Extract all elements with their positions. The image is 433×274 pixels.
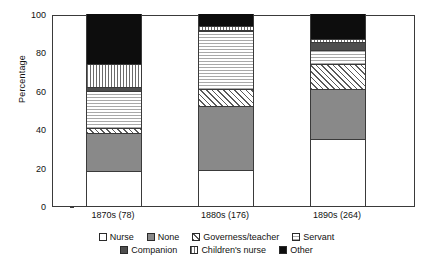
bar-segment[interactable] [87, 171, 141, 206]
bar-segment[interactable] [199, 14, 253, 26]
legend-swatch-servant [292, 233, 300, 241]
y-tick-label: 0 [41, 203, 46, 212]
x-tick-label: 1890s (264) [313, 210, 361, 220]
bar-segment[interactable] [311, 139, 365, 206]
y-tick-label: 40 [36, 126, 46, 135]
y-tick-label: 60 [36, 88, 46, 97]
legend-item[interactable]: Companion [120, 245, 177, 255]
legend-label: Nurse [110, 232, 134, 242]
legend-row-2: CompanionChildren's nurseOther [0, 245, 433, 255]
legend-swatch-companion [120, 246, 128, 254]
bar-segment[interactable] [87, 14, 141, 64]
x-tick-label: 1880s (176) [201, 210, 249, 220]
legend-label: Companion [131, 245, 177, 255]
bar-segment[interactable] [311, 42, 365, 50]
bar-segment[interactable] [199, 89, 253, 106]
stacked-bar[interactable] [310, 14, 366, 206]
chart-legend: NurseNoneGoverness/teacherServant Compan… [0, 232, 433, 258]
legend-label: Other [290, 245, 313, 255]
bar-segment[interactable] [87, 64, 141, 87]
bar-segment[interactable] [199, 31, 253, 89]
x-tick-label: 1870s (78) [91, 210, 134, 220]
legend-swatch-governess [192, 233, 200, 241]
legend-swatch-none [147, 233, 155, 241]
legend-label: Governess/teacher [203, 232, 279, 242]
plot-area: Percentage 100806040200 1870s (78)1880s … [0, 0, 433, 222]
bar-segment[interactable] [311, 89, 365, 139]
legend-item[interactable]: None [147, 232, 180, 242]
legend-swatch-nurse [99, 233, 107, 241]
legend-item[interactable]: Governess/teacher [192, 232, 279, 242]
y-tick-label: 80 [36, 49, 46, 58]
axes-box [52, 15, 415, 207]
stacked-bar-chart-figure: Percentage 100806040200 1870s (78)1880s … [0, 0, 433, 274]
legend-item[interactable]: Children's nurse [190, 245, 266, 255]
legend-label: Servant [303, 232, 334, 242]
bar-segment[interactable] [311, 14, 365, 39]
stacked-bar[interactable] [86, 14, 142, 206]
stacked-bar[interactable] [198, 14, 254, 206]
bar-segment[interactable] [199, 170, 253, 206]
legend-swatch-other [279, 246, 287, 254]
bar-segment[interactable] [87, 91, 141, 128]
bar-segment[interactable] [87, 133, 141, 171]
bar-segment[interactable] [311, 50, 365, 64]
legend-swatch-childrens-nurse [190, 246, 198, 254]
y-axis-tick-labels: 100806040200 [22, 8, 46, 208]
x-axis-tick-labels: 1870s (78)1880s (176)1890s (264) [52, 210, 415, 226]
legend-row-1: NurseNoneGoverness/teacherServant [0, 232, 433, 242]
y-tick-label: 20 [36, 165, 46, 174]
bar-segment[interactable] [199, 106, 253, 169]
legend-item[interactable]: Other [279, 245, 313, 255]
legend-item[interactable]: Nurse [99, 232, 134, 242]
bar-segment[interactable] [311, 64, 365, 89]
legend-label: Children's nurse [201, 245, 266, 255]
y-tick-mark [70, 207, 74, 208]
y-tick-label: 100 [31, 11, 46, 20]
legend-label: None [158, 232, 180, 242]
legend-item[interactable]: Servant [292, 232, 334, 242]
